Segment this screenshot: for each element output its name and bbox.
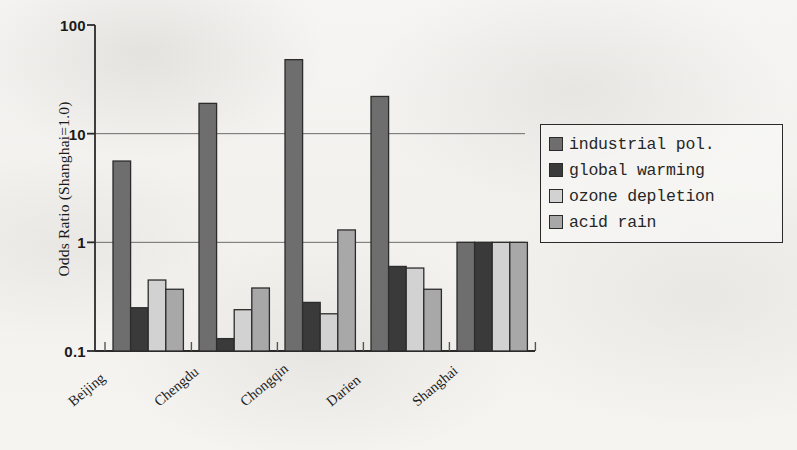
legend-item-industrial-pol-[interactable]: industrial pol. xyxy=(549,131,782,157)
bar-shanghai-industrial-pol- xyxy=(457,242,475,351)
bar-beijing-ozone-depletion xyxy=(148,280,166,351)
legend-item-acid-rain[interactable]: acid rain xyxy=(549,209,782,235)
legend-item-label: ozone depletion xyxy=(569,187,715,206)
legend-swatch-icon xyxy=(549,189,563,203)
bar-chongqin-industrial-pol- xyxy=(285,60,303,351)
bar-chengdu-industrial-pol- xyxy=(199,103,217,351)
legend-item-label: acid rain xyxy=(569,213,656,232)
legend-swatch-icon xyxy=(549,215,563,229)
bar-beijing-global-warming xyxy=(131,308,149,351)
odds-ratio-bar-chart: Odds Ratio (Shanghai=1.0) 1001010.1 Beij… xyxy=(0,0,797,450)
legend-item-label: industrial pol. xyxy=(569,135,715,154)
bar-beijing-industrial-pol- xyxy=(113,161,131,351)
legend-item-global-warming[interactable]: global warming xyxy=(549,157,782,183)
bar-beijing-acid-rain xyxy=(166,289,184,351)
legend-item-label: global warming xyxy=(569,161,705,180)
legend-item-ozone-depletion[interactable]: ozone depletion xyxy=(549,183,782,209)
bar-darien-acid-rain xyxy=(424,289,442,351)
bar-darien-ozone-depletion xyxy=(406,268,424,351)
bar-shanghai-global-warming xyxy=(475,242,493,351)
bar-chongqin-ozone-depletion xyxy=(320,314,338,351)
legend-swatch-icon xyxy=(549,163,563,177)
bar-chengdu-ozone-depletion xyxy=(234,310,252,351)
bar-shanghai-acid-rain xyxy=(510,242,528,351)
legend-swatch-icon xyxy=(549,137,563,151)
bar-chengdu-global-warming xyxy=(217,339,235,351)
bar-chengdu-acid-rain xyxy=(252,288,270,351)
bar-chongqin-acid-rain xyxy=(338,230,356,351)
legend: industrial pol.global warmingozone deple… xyxy=(540,124,783,243)
bar-shanghai-ozone-depletion xyxy=(492,242,510,351)
bar-chongqin-global-warming xyxy=(303,302,321,351)
bar-darien-industrial-pol- xyxy=(371,96,389,351)
bar-darien-global-warming xyxy=(389,266,407,351)
